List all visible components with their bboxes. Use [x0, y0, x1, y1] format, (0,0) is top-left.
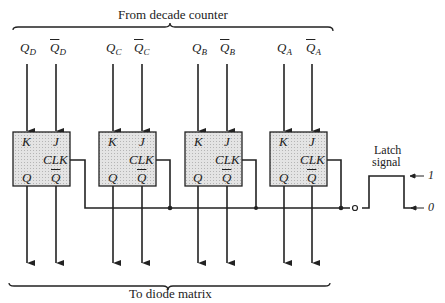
ff-a-qbar-pin: Q — [307, 170, 316, 186]
latch-label-line2: signal — [372, 155, 401, 170]
latch-high-level: 1 — [428, 168, 434, 183]
input-label-qb-bar: QB — [220, 40, 235, 57]
top-caption: From decade counter — [118, 7, 228, 23]
ff-c-qbar-pin: Q — [137, 170, 146, 186]
latch-input-terminal — [353, 206, 358, 211]
input-label-qc-bar: QC — [134, 40, 149, 57]
ff-d-clk-pin: CLK — [43, 152, 68, 168]
ff-a-k-pin: K — [279, 134, 288, 150]
ff-b-k-pin: K — [194, 134, 203, 150]
input-label-qc: QC — [106, 40, 121, 57]
ff-d-k-pin: K — [22, 134, 31, 150]
ff-b-q-pin: Q — [193, 170, 202, 186]
ff-c-clk-pin: CLK — [129, 152, 154, 168]
ff-b-qbar-pin: Q — [222, 170, 231, 186]
input-label-qb: QB — [192, 40, 207, 57]
ff-c-k-pin: K — [108, 134, 117, 150]
bottom-caption: To diode matrix — [129, 286, 212, 302]
ff-b-clk-pin: CLK — [215, 152, 240, 168]
input-label-qa: QA — [277, 40, 292, 57]
ff-d-j-pin: J — [53, 134, 59, 150]
input-label-qd-bar: QD — [50, 40, 66, 57]
latch-low-level: 0 — [428, 200, 434, 215]
jk-latch-diagram: From decade counter To diode matrix QD Q… — [0, 0, 445, 303]
ff-c-j-pin: J — [139, 134, 145, 150]
ff-d-q-pin: Q — [22, 170, 31, 186]
ff-c-q-pin: Q — [108, 170, 117, 186]
ff-a-j-pin: J — [309, 134, 315, 150]
ff-a-q-pin: Q — [279, 170, 288, 186]
ff-a-clk-pin: CLK — [300, 152, 325, 168]
ff-b-j-pin: J — [224, 134, 230, 150]
ff-d-qbar-pin: Q — [51, 170, 60, 186]
top-brace — [13, 23, 333, 31]
input-label-qd: QD — [20, 40, 36, 57]
input-label-qa-bar: QA — [306, 40, 321, 57]
